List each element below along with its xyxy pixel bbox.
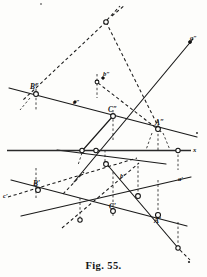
node-point-C-upper xyxy=(111,114,116,119)
figure-caption: Fig. 55. xyxy=(0,260,207,271)
solid-line-b-upper xyxy=(57,150,166,164)
solid-line-C-to-axis xyxy=(82,116,113,151)
label-trace-a-lower: a′ xyxy=(178,175,183,182)
label-trace-b-lower: b′ xyxy=(120,172,125,179)
node-axis-intersect-left xyxy=(80,148,84,152)
node-apex-point xyxy=(104,20,109,25)
dashed-line-lower-diagonal xyxy=(62,163,139,228)
speck-right-margin-icon xyxy=(196,132,198,134)
node-point-a-lower-cross xyxy=(136,194,141,199)
label-point-A-upper: A″ xyxy=(154,118,164,127)
node-axis-intersect-right xyxy=(176,148,180,152)
speck-top-icon xyxy=(40,3,42,5)
node-point-B-lower xyxy=(36,188,41,193)
blob-b-upper-dot xyxy=(102,77,105,80)
node-point-A-upper xyxy=(156,127,161,132)
label-point-A-lower: A′ xyxy=(153,216,161,225)
trace-end-blobs-group xyxy=(74,41,192,104)
node-axis-intersect-mid xyxy=(94,148,98,152)
label-point-B-lower: B′ xyxy=(32,179,40,188)
node-point-B-upper xyxy=(34,92,39,97)
label-point-C-lower: C′ xyxy=(109,202,116,211)
dashed-line-apex-up xyxy=(107,6,120,20)
label-trace-a-upper: a″ xyxy=(190,34,197,41)
ordinate-line-B-flank xyxy=(20,98,30,110)
figure-container: B″ b″ c″ C″ A″ a″ x c′ B′ b′ C′ A′ a′ Fi… xyxy=(0,0,207,277)
label-ground-axis: x xyxy=(192,146,197,153)
dashed-line-a-continuation xyxy=(63,172,84,194)
solid-line-a-lower xyxy=(21,177,191,216)
solid-line-a-upper xyxy=(74,39,193,182)
label-point-C-upper: C″ xyxy=(108,105,117,114)
geometry-drawing-canvas: B″ b″ c″ C″ A″ a″ x c′ B′ b′ C′ A′ a′ xyxy=(0,0,207,277)
label-trace-c-upper: c″ xyxy=(73,98,80,105)
node-cross-below-axis xyxy=(104,162,109,167)
solid-line-b-lower xyxy=(105,162,179,249)
dashed-line-apex-tail-right xyxy=(112,5,125,16)
ordinate-line-A-flank xyxy=(146,133,152,150)
label-point-B-upper: B″ xyxy=(29,82,39,91)
dashed-line-end-tail xyxy=(180,250,190,260)
label-trace-c-lower: c′ xyxy=(3,192,8,199)
label-trace-b-upper: b″ xyxy=(103,70,110,77)
ordinate-line-A-flank2 xyxy=(163,133,170,150)
node-trace-mid-lower xyxy=(78,218,82,222)
node-point-b-trace-upper xyxy=(95,80,99,84)
printing-specks-group xyxy=(40,3,198,263)
node-end-lower xyxy=(176,246,180,250)
ordinate-line-axis-left xyxy=(78,153,82,165)
